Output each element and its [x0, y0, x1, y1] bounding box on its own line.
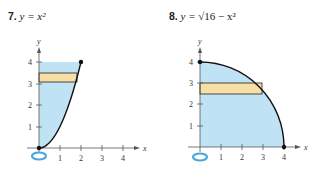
- graph-8: 1 2 3 4 1 2 3 4 x y: [161, 0, 322, 181]
- svg-text:2: 2: [28, 101, 32, 110]
- shaded-region: [200, 62, 284, 147]
- x-axis-arrow-icon: [134, 146, 140, 150]
- svg-text:2: 2: [240, 153, 244, 162]
- svg-text:3: 3: [28, 80, 32, 89]
- endpoint: [282, 145, 286, 149]
- svg-text:4: 4: [28, 58, 32, 67]
- svg-text:4: 4: [121, 154, 125, 163]
- graph-7: 1 2 3 4 1 2 3 4 x y: [0, 0, 161, 181]
- representative-rectangle: [39, 73, 77, 82]
- svg-text:1: 1: [189, 122, 193, 131]
- endpoint: [198, 60, 202, 64]
- svg-text:1: 1: [28, 123, 32, 132]
- svg-text:1: 1: [58, 154, 62, 163]
- svg-text:2: 2: [189, 100, 193, 109]
- rotation-arrow-icon: [32, 153, 46, 160]
- svg-text:2: 2: [79, 154, 83, 163]
- svg-text:1: 1: [219, 153, 223, 162]
- y-axis-arrow-icon: [37, 47, 41, 53]
- svg-text:3: 3: [100, 154, 104, 163]
- rotation-arrow-icon: [193, 154, 207, 161]
- endpoint: [79, 60, 83, 64]
- svg-text:4: 4: [189, 58, 193, 67]
- endpoint: [37, 146, 41, 150]
- x-axis-arrow-icon: [295, 145, 301, 149]
- problem-7: 7. y = x² 1 2 3 4 1 2: [0, 0, 161, 181]
- representative-rectangle: [200, 83, 262, 94]
- svg-text:3: 3: [261, 153, 265, 162]
- problem-8: 8. y = √16 − x² 1 2 3 4 1 2 3 4 x: [161, 0, 322, 181]
- svg-text:4: 4: [282, 153, 286, 162]
- svg-text:x: x: [303, 143, 308, 152]
- svg-text:x: x: [142, 144, 147, 153]
- y-axis-arrow-icon: [198, 47, 202, 53]
- svg-text:3: 3: [189, 79, 193, 88]
- svg-text:y: y: [197, 37, 202, 46]
- svg-text:y: y: [36, 37, 41, 46]
